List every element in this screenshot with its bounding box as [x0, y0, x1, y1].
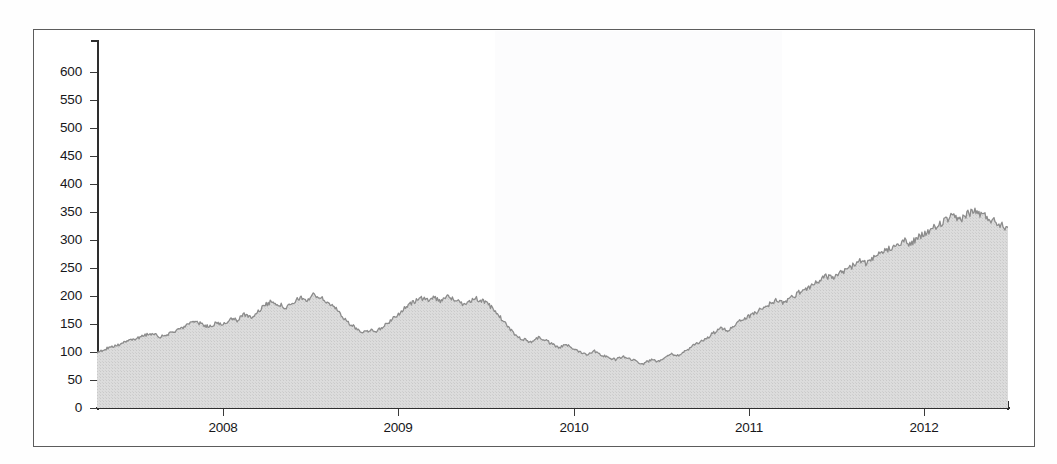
y-tick-mark: [90, 268, 97, 269]
y-tick-label: 200: [36, 289, 82, 303]
y-tick-label: 350: [36, 205, 82, 219]
y-tick-label: 600: [36, 65, 82, 79]
y-tick-mark: [90, 100, 97, 101]
y-tick-label: 300: [36, 233, 82, 247]
y-tick-label: 550: [36, 93, 82, 107]
y-tick-mark: [90, 240, 97, 241]
x-tick-mark: [924, 409, 925, 416]
y-tick-label: 0: [36, 401, 82, 415]
plot-area: [97, 44, 1008, 408]
y-tick-label: 250: [36, 261, 82, 275]
y-tick-label: 500: [36, 121, 82, 135]
y-tick-mark: [90, 352, 97, 353]
x-tick-label: 2011: [719, 421, 779, 435]
y-tick-mark: [90, 296, 97, 297]
y-tick-label: 450: [36, 149, 82, 163]
x-tick-label: 2012: [894, 421, 954, 435]
x-tick-mark: [574, 409, 575, 416]
y-tick-label: 400: [36, 177, 82, 191]
x-tick-label: 2010: [544, 421, 604, 435]
y-tick-mark: [90, 128, 97, 129]
y-tick-mark: [90, 380, 97, 381]
y-tick-label: 100: [36, 345, 82, 359]
y-tick-mark: [90, 184, 97, 185]
y-tick-mark: [90, 72, 97, 73]
chart-figure: 050100150200250300350400450500550600 200…: [0, 0, 1057, 464]
y-tick-mark: [90, 212, 97, 213]
x-tick-label: 2008: [193, 421, 253, 435]
y-tick-label: 50: [36, 373, 82, 387]
x-tick-mark: [223, 409, 224, 416]
y-tick-mark: [90, 324, 97, 325]
y-tick-label: 150: [36, 317, 82, 331]
area-series-index: [97, 44, 1008, 408]
y-axis-top-cap: [91, 40, 99, 42]
x-tick-mark: [398, 409, 399, 416]
y-tick-mark: [90, 408, 97, 409]
y-tick-mark: [90, 156, 97, 157]
x-tick-label: 2009: [368, 421, 428, 435]
x-tick-mark: [749, 409, 750, 416]
